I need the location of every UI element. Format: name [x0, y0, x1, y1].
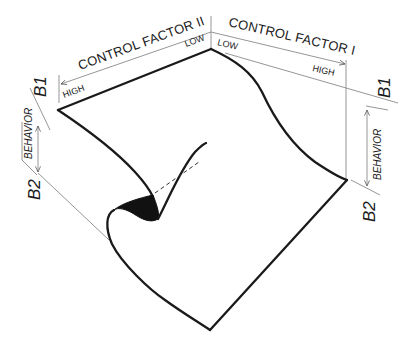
- control-factor-1-baseline: [225, 53, 398, 103]
- behavior-right-b2-slash: [351, 180, 380, 195]
- surface-bottom-right-edge: [210, 180, 347, 330]
- behavior-left-b2-slash: [22, 160, 37, 175]
- behavior-left-b2-projection: [38, 173, 109, 240]
- behavior-right-b1-slash: [366, 106, 388, 110]
- control-factor-1-high-label: HIGH: [312, 63, 336, 78]
- fold-shading: [114, 195, 159, 221]
- control-factor-2-low-label: LOW: [183, 32, 206, 49]
- fold-hidden-dashed-line: [155, 162, 199, 193]
- behavior-right-b2-label: B2: [360, 201, 379, 222]
- control-factor-2-high-label: HIGH: [61, 83, 86, 100]
- behavior-left-b2-label: B2: [25, 179, 44, 200]
- cusp-catastrophe-diagram: CONTROL FACTOR II LOW HIGH CONTROL FACTO…: [0, 0, 405, 353]
- surface-upper-sheet-edge: [58, 110, 153, 197]
- behavior-right-axis-label: BEHAVIOR: [372, 129, 383, 180]
- behavior-surface: [58, 49, 347, 330]
- behavior-right-b1-label: B1: [375, 77, 394, 98]
- behavior-left-b1-label: B1: [31, 76, 50, 97]
- fold-upper-curve: [158, 143, 206, 219]
- behavior-left-axis-label: BEHAVIOR: [23, 108, 34, 159]
- surface-lower-sheet-edge: [107, 210, 210, 330]
- control-factor-1-low-label: LOW: [217, 37, 240, 51]
